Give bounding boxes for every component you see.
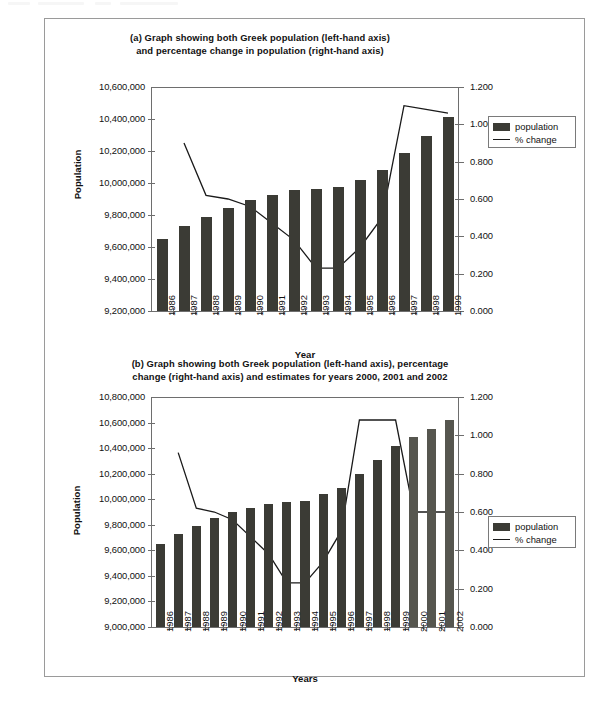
chart-a-legend: population % change <box>488 116 576 148</box>
y-tick-label-left: 9,800,000 <box>75 209 145 220</box>
y-tick-label-right: 0.000 <box>470 621 514 632</box>
x-tick-label-1990: 1990 <box>237 611 248 632</box>
chart-a-canvas <box>151 87 459 312</box>
y-tick-label-left: 10,000,000 <box>75 493 145 504</box>
y-tick-right <box>455 162 464 163</box>
y-tick-label-right: 0.800 <box>470 156 514 167</box>
x-tick-label-1986: 1986 <box>164 611 175 632</box>
x-tick-label-1987: 1987 <box>182 611 193 632</box>
x-tick-label-1996: 1996 <box>386 295 397 316</box>
y-tick-right <box>455 512 464 513</box>
bar-2002 <box>445 420 454 627</box>
chart-a-legend-item-change: % change <box>493 133 570 146</box>
x-tick-label-1987: 1987 <box>188 295 199 316</box>
chart-b-legend-item-change: % change <box>493 533 570 546</box>
bar-1994 <box>300 501 309 628</box>
y-tick-left <box>148 423 155 424</box>
x-tick-label-1990: 1990 <box>254 295 265 316</box>
y-tick-label-left: 10,400,000 <box>75 113 145 124</box>
y-tick-left <box>148 576 155 577</box>
x-tick-label-1995: 1995 <box>364 295 375 316</box>
x-tick-label-1989: 1989 <box>218 611 229 632</box>
y-tick-label-right: 1.000 <box>470 429 514 440</box>
x-tick-label-1993: 1993 <box>291 611 302 632</box>
chart-b: (b) Graph showing both Greek population … <box>45 355 584 677</box>
chart-a: (a) Graph showing both Greek population … <box>45 19 584 349</box>
x-tick-label-1986: 1986 <box>166 295 177 316</box>
chart-b-title: (b) Graph showing both Greek population … <box>45 357 535 383</box>
y-tick-left <box>148 448 155 449</box>
y-tick-right <box>455 435 464 436</box>
bar-1996 <box>377 170 388 311</box>
y-tick-label-left: 9,600,000 <box>75 544 145 555</box>
y-tick-label-left: 9,800,000 <box>75 519 145 530</box>
y-tick-label-left: 9,200,000 <box>75 305 145 316</box>
bar-1999 <box>391 446 400 627</box>
y-tick-label-right: 0.200 <box>470 268 514 279</box>
y-tick-left <box>148 215 155 216</box>
y-tick-left <box>148 311 155 312</box>
bar-2001 <box>427 429 436 627</box>
bar-2000 <box>409 437 418 627</box>
chart-a-plot-area: 9,200,0009,400,0009,600,0009,800,00010,0… <box>151 87 459 311</box>
chart-b-legend-item-population: population <box>493 520 570 533</box>
y-tick-left <box>148 279 155 280</box>
x-tick-label-1999: 1999 <box>400 611 411 632</box>
x-tick-label-2002: 2002 <box>454 611 465 632</box>
chart-b-title-line2: change (right-hand axis) and estimates f… <box>45 370 535 383</box>
y-tick-label-left: 9,400,000 <box>75 273 145 284</box>
x-tick-label-1998: 1998 <box>381 611 392 632</box>
bar-1997 <box>399 153 410 311</box>
bar-1994 <box>333 187 344 311</box>
x-tick-label-1998: 1998 <box>430 295 441 316</box>
bar-1991 <box>267 195 278 311</box>
x-tick-label-1999: 1999 <box>452 295 463 316</box>
x-tick-label-1995: 1995 <box>327 611 338 632</box>
x-tick-label-1988: 1988 <box>210 295 221 316</box>
y-tick-label-left: 9,400,000 <box>75 570 145 581</box>
change-line-icon <box>493 139 510 140</box>
y-tick-right <box>455 236 464 237</box>
chart-a-title-line2: and percentage change in population (rig… <box>45 44 475 57</box>
y-tick-label-right: 0.600 <box>470 193 514 204</box>
chart-b-x-axis-label: Years <box>151 673 459 684</box>
x-tick-label-1994: 1994 <box>309 611 320 632</box>
y-tick-right <box>455 474 464 475</box>
x-tick-label-1997: 1997 <box>363 611 374 632</box>
x-tick-label-1994: 1994 <box>342 295 353 316</box>
y-tick-label-left: 10,600,000 <box>75 417 145 428</box>
x-tick-label-1989: 1989 <box>232 295 243 316</box>
page-frame: (a) Graph showing both Greek population … <box>44 18 585 677</box>
chart-a-title-line1: (a) Graph showing both Greek population … <box>45 31 475 44</box>
y-tick-left <box>148 474 155 475</box>
bar-1992 <box>264 504 273 627</box>
y-tick-label-left: 9,000,000 <box>75 621 145 632</box>
x-tick-label-2001: 2001 <box>436 611 447 632</box>
y-tick-right <box>455 589 464 590</box>
x-tick-label-1991: 1991 <box>255 611 266 632</box>
y-tick-right <box>455 87 464 88</box>
y-tick-label-left: 9,200,000 <box>75 595 145 606</box>
chart-b-legend-change-label: % change <box>515 534 557 545</box>
chart-b-title-line1: (b) Graph showing both Greek population … <box>45 357 535 370</box>
x-tick-label-1988: 1988 <box>200 611 211 632</box>
bar-1990 <box>228 512 237 627</box>
x-tick-label-1992: 1992 <box>273 611 284 632</box>
x-tick-label-1992: 1992 <box>298 295 309 316</box>
bar-1993 <box>311 189 322 311</box>
x-tick-label-1991: 1991 <box>276 295 287 316</box>
bar-1999 <box>443 117 454 311</box>
bar-1993 <box>282 502 291 627</box>
y-tick-label-right: 0.400 <box>470 230 514 241</box>
y-tick-label-left: 10,000,000 <box>75 177 145 188</box>
y-tick-left <box>148 601 155 602</box>
x-tick-label-2000: 2000 <box>418 611 429 632</box>
x-tick-label-1996: 1996 <box>345 611 356 632</box>
y-tick-left <box>148 247 155 248</box>
y-tick-left <box>148 183 155 184</box>
scan-artifact-strip <box>0 0 593 12</box>
y-tick-label-left: 10,200,000 <box>75 468 145 479</box>
y-tick-right <box>455 124 464 125</box>
population-swatch-icon <box>493 523 510 531</box>
y-tick-right <box>455 550 464 551</box>
